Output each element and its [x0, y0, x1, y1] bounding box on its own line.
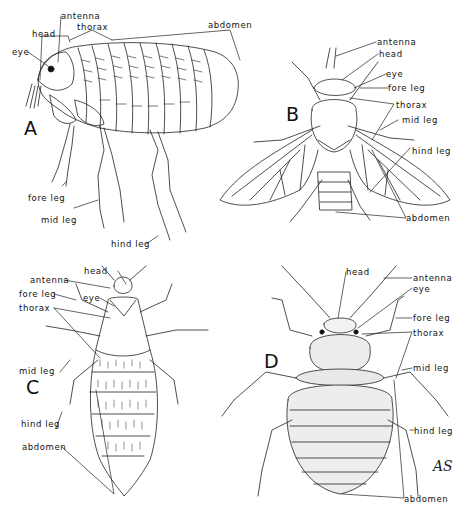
flea-label-abdomen: abdomen — [208, 21, 252, 30]
panel-label-b: B — [286, 105, 299, 124]
fly-label-antenna: antenna — [377, 38, 416, 47]
louse-drawing — [46, 266, 208, 496]
fly-drawing — [220, 48, 450, 222]
bedbug-label-fore-leg: fore leg — [413, 314, 450, 323]
fly-label-thorax: thorax — [396, 101, 427, 110]
louse-leader-lines — [54, 271, 126, 494]
fly-label-fore-leg: fore leg — [388, 84, 425, 93]
panel-label-d: D — [264, 352, 279, 371]
bedbug-label-abdomen: abdomen — [404, 495, 448, 504]
artist-signature: AS — [433, 458, 453, 474]
bedbug-label-head: head — [346, 268, 370, 277]
louse-label-fore-leg: fore leg — [19, 290, 56, 299]
flea-label-head: head — [32, 30, 56, 39]
fly-label-hind-leg: hind leg — [412, 147, 451, 156]
fly-label-abdomen: abdomen — [406, 214, 450, 223]
panel-label-a: A — [24, 119, 37, 138]
flea-label-thorax: thorax — [77, 23, 108, 32]
louse-label-eye: eye — [83, 294, 100, 303]
louse-label-antenna: antenna — [30, 276, 69, 285]
fly-label-eye: eye — [386, 70, 403, 79]
flea-label-hind-leg: hind leg — [111, 240, 150, 249]
bedbug-label-hind-leg: hind leg — [414, 427, 453, 436]
bedbug-drawing — [222, 266, 448, 496]
louse-label-thorax: thorax — [19, 304, 50, 313]
flea-label-eye: eye — [12, 48, 29, 57]
flea-label-fore-leg: fore leg — [28, 194, 65, 203]
fly-label-mid-leg: mid leg — [402, 116, 438, 125]
flea-label-antenna: antenna — [61, 12, 100, 21]
bedbug-label-antenna: antenna — [413, 274, 452, 283]
bedbug-label-eye: eye — [413, 285, 430, 294]
bedbug-label-mid-leg: mid leg — [413, 364, 449, 373]
panel-label-c: C — [26, 378, 39, 397]
louse-label-mid-leg: mid leg — [19, 367, 55, 376]
flea-label-mid-leg: mid leg — [41, 216, 77, 225]
bedbug-label-thorax: thorax — [413, 329, 444, 338]
louse-label-head: head — [84, 267, 108, 276]
louse-label-hind-leg: hind leg — [21, 420, 60, 429]
louse-label-abdomen: abdomen — [22, 443, 66, 452]
fly-label-head: head — [379, 50, 403, 59]
flea-drawing — [26, 43, 238, 240]
